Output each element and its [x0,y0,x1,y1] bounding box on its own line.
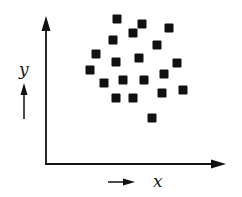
y-axis-label: y [18,59,29,79]
data-point [135,54,144,63]
data-point [179,86,188,95]
scatter-points [86,15,188,123]
data-point [113,15,122,24]
data-point [173,59,182,68]
x-label-group: x [108,171,163,191]
x-axis [45,160,226,169]
data-point [140,76,149,85]
y-label-group: y [18,59,29,119]
data-point [129,29,138,38]
data-point [112,94,121,103]
y-axis [42,16,51,164]
data-point [112,58,121,67]
data-point [158,89,167,98]
data-point [165,24,174,33]
y-axis-arrowhead-icon [42,16,51,31]
data-point [138,20,147,29]
up-arrow-icon [21,83,28,95]
scatter-diagram: y x [0,0,242,197]
x-axis-label: x [153,171,163,191]
data-point [119,76,128,85]
data-point [129,94,138,103]
data-point [92,50,101,59]
data-point [148,114,157,123]
data-point [109,36,118,45]
data-point [160,70,169,79]
data-point [100,79,109,88]
right-arrow-icon [123,179,135,186]
data-point [86,66,95,75]
x-axis-arrowhead-icon [211,160,226,169]
data-point [153,41,162,50]
